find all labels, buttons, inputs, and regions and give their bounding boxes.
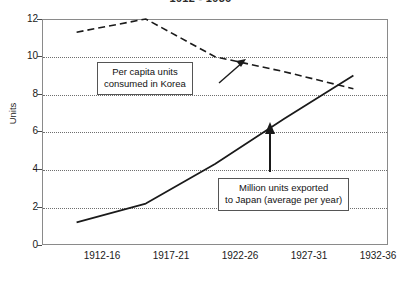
y-tick-label-8: 8 (8, 89, 38, 99)
x-tick-label-1922-26: 1922-26 (200, 250, 280, 261)
y-tick-label-4: 4 (8, 164, 38, 174)
gridline-8 (43, 95, 387, 96)
chart-figure: 1912 - 1936 Units 12 10 8 6 4 2 0 1912-1… (0, 0, 401, 282)
gridline-6 (43, 132, 387, 133)
y-tick-label-10: 10 (8, 51, 38, 61)
annotation-korea-line1: Per capita units (104, 66, 186, 78)
gridline-10 (43, 57, 387, 58)
y-tick-label-0: 0 (8, 240, 38, 250)
x-tick-label-1927-31: 1927-31 (269, 250, 349, 261)
gridline-4 (43, 170, 387, 171)
annotation-callout-korea: Per capita units consumed in Korea (97, 62, 193, 95)
x-tick-label-1932-36: 1932-36 (338, 250, 401, 261)
annotation-callout-japan: Million units exported to Japan (average… (218, 178, 349, 211)
annotation-korea-line2: consumed in Korea (104, 78, 186, 90)
y-tick-label-12: 12 (8, 14, 38, 24)
plot-area (42, 19, 388, 245)
y-tick-label-6: 6 (8, 126, 38, 136)
y-tick-label-2: 2 (8, 202, 38, 212)
x-tick-label-1917-21: 1917-21 (131, 250, 211, 261)
x-tick-label-1912-16: 1912-16 (62, 250, 142, 261)
y-tick-mark-0 (37, 245, 42, 246)
annotation-japan-line1: Million units exported (225, 182, 342, 194)
annotation-japan-line2: to Japan (average per year) (225, 194, 342, 206)
chart-title: 1912 - 1936 (0, 0, 401, 4)
